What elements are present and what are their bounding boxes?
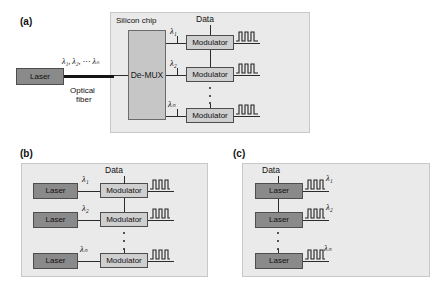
wavelength-label-b-1: λ₁ xyxy=(82,174,89,184)
wavelength-label-c-2: λ₂ xyxy=(326,202,333,212)
figure-canvas: (a) Silicon chip Laser λ₁, λ₂, ⋯ λₙ Opti… xyxy=(0,0,444,291)
laser-source-a-label: Laser xyxy=(30,73,50,81)
modulator-a-2[interactable]: Modulator xyxy=(186,67,234,82)
modulator-a-n-label: Modulator xyxy=(192,112,228,120)
laser-c-1[interactable]: Laser xyxy=(255,183,303,199)
pulse-train-b-2 xyxy=(150,207,170,219)
laser-source-a[interactable]: Laser xyxy=(16,68,64,85)
modulator-b-1-label: Modulator xyxy=(106,187,142,195)
pulse-train-b-n xyxy=(150,248,170,260)
fiber-to-demux-wire xyxy=(114,75,128,76)
modulator-out-wire-b-1 xyxy=(148,191,174,192)
data-feed-b-1 xyxy=(124,176,125,184)
modulator-out-wire-a-2 xyxy=(234,75,260,76)
panel-label-a: (a) xyxy=(20,16,32,27)
laser-out-wire-c-1 xyxy=(303,191,329,192)
wavelength-label-b-2: λ₂ xyxy=(82,203,89,213)
laser-b-1[interactable]: Laser xyxy=(33,183,78,199)
laser-to-mod-wire-b-2 xyxy=(78,220,100,221)
laser-c-n[interactable]: Laser xyxy=(255,253,303,269)
laser-b-1-label: Laser xyxy=(45,187,65,195)
laser-b-n[interactable]: Laser xyxy=(33,253,78,269)
optical-fiber-label-line1: Optical xyxy=(70,86,95,95)
modulator-a-1-label: Modulator xyxy=(192,39,228,47)
demux-out-riser-1 xyxy=(177,36,178,44)
data-feed-a-2 xyxy=(210,50,211,67)
pulse-train-a-2 xyxy=(236,62,258,74)
silicon-chip-label: Silicon chip xyxy=(116,16,156,25)
demux-out-riser-n xyxy=(177,109,178,117)
modulator-b-n-label: Modulator xyxy=(106,257,142,265)
wavelength-label-a-1: λ₁ xyxy=(170,26,177,36)
vertical-ellipsis-b xyxy=(123,232,125,250)
laser-to-mod-wire-b-1 xyxy=(78,191,100,192)
panel-label-c: (c) xyxy=(233,148,245,159)
modulator-a-1[interactable]: Modulator xyxy=(186,35,234,50)
data-label-b: Data xyxy=(105,166,123,176)
pulse-train-b-1 xyxy=(150,178,170,190)
laser-out-wire-c-2 xyxy=(303,220,329,221)
demux-out-wire-2 xyxy=(166,75,186,76)
pulse-train-c-2 xyxy=(305,207,325,219)
optical-fiber-label-line2: fiber xyxy=(76,95,92,104)
laser-b-n-label: Laser xyxy=(45,257,65,265)
modulator-a-2-label: Modulator xyxy=(192,71,228,79)
laser-out-wire-c-n xyxy=(303,261,329,262)
data-feed-b-n xyxy=(124,249,125,253)
data-feed-a-1 xyxy=(210,25,211,35)
vertical-ellipsis-a xyxy=(209,87,211,104)
modulator-a-n[interactable]: Modulator xyxy=(186,108,234,123)
demux-out-riser-2 xyxy=(177,68,178,76)
data-feed-c-2 xyxy=(278,199,279,212)
wavelength-label-b-n: λₙ xyxy=(80,244,87,254)
modulator-out-wire-b-2 xyxy=(148,220,174,221)
panel-label-b: (b) xyxy=(20,148,33,159)
data-feed-a-n xyxy=(210,104,211,108)
wavelength-label-a-n: λₙ xyxy=(168,99,175,109)
modulator-b-2-label: Modulator xyxy=(106,216,142,224)
vertical-ellipsis-c xyxy=(277,232,279,250)
laser-b-2[interactable]: Laser xyxy=(33,212,78,228)
modulator-out-wire-a-1 xyxy=(234,43,260,44)
data-label-a: Data xyxy=(196,15,214,25)
demux-label: De-MUX xyxy=(131,71,164,80)
pulse-train-a-1 xyxy=(236,30,258,42)
laser-c-2-label: Laser xyxy=(269,216,289,224)
optical-fiber-line xyxy=(64,75,114,78)
wavelength-label-c-1: λ₁ xyxy=(326,173,333,183)
wavelength-label-c-n: λₙ xyxy=(324,243,331,253)
pulse-train-c-1 xyxy=(305,178,325,190)
data-label-c: Data xyxy=(262,166,280,176)
laser-to-mod-wire-b-n xyxy=(78,261,100,262)
wavelength-label-a-2: λ₂ xyxy=(170,58,177,68)
modulator-out-wire-b-n xyxy=(148,261,174,262)
data-feed-b-2 xyxy=(124,198,125,212)
modulator-out-wire-a-n xyxy=(234,116,260,117)
pulse-train-a-n xyxy=(236,103,258,115)
demux-out-wire-n xyxy=(166,116,186,117)
demux-block[interactable]: De-MUX xyxy=(128,30,166,120)
laser-c-n-label: Laser xyxy=(269,257,289,265)
fiber-wavelength-label: λ₁, λ₂, ⋯ λₙ xyxy=(62,57,99,66)
laser-b-2-label: Laser xyxy=(45,216,65,224)
pulse-train-c-n xyxy=(305,248,325,260)
modulator-b-1[interactable]: Modulator xyxy=(100,183,148,198)
modulator-b-2[interactable]: Modulator xyxy=(100,212,148,227)
modulator-b-n[interactable]: Modulator xyxy=(100,253,148,268)
laser-c-1-label: Laser xyxy=(269,187,289,195)
laser-c-2[interactable]: Laser xyxy=(255,212,303,228)
demux-out-wire-1 xyxy=(166,43,186,44)
